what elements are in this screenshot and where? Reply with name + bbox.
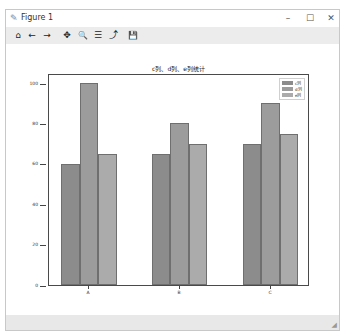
legend-swatch bbox=[282, 93, 293, 97]
resize-grip-icon[interactable]: ◢ bbox=[332, 321, 337, 329]
edit-axis-icon[interactable]: ⤴ bbox=[106, 29, 120, 42]
figure-app-icon: ✎ bbox=[10, 13, 18, 23]
bar-c-A bbox=[61, 164, 80, 285]
bar-c-B bbox=[152, 154, 170, 285]
subplots-icon[interactable]: ☰ bbox=[91, 29, 105, 42]
bar-d-C bbox=[261, 103, 280, 285]
back-icon[interactable]: ← bbox=[25, 29, 39, 42]
status-bar: ◢ bbox=[6, 315, 339, 330]
home-icon[interactable]: ⌂ bbox=[11, 29, 25, 42]
legend-item: e列 bbox=[282, 92, 302, 98]
zoom-icon[interactable]: 🔍 bbox=[76, 29, 90, 42]
bar-d-B bbox=[170, 123, 189, 285]
minimize-button[interactable]: – bbox=[278, 11, 298, 25]
bar-e-A bbox=[98, 154, 117, 285]
save-icon[interactable]: 💾 bbox=[126, 29, 140, 42]
bar-c-C bbox=[243, 144, 261, 285]
bar-e-C bbox=[280, 134, 298, 285]
bar-e-B bbox=[189, 144, 207, 285]
forward-icon[interactable]: → bbox=[40, 29, 54, 42]
legend-swatch bbox=[282, 81, 293, 85]
close-button[interactable]: ✕ bbox=[321, 11, 341, 25]
legend-swatch bbox=[282, 87, 293, 91]
maximize-button[interactable]: ☐ bbox=[300, 11, 320, 25]
title-bar[interactable]: ✎ Figure 1 – ☐ ✕ bbox=[6, 10, 339, 27]
legend-label: e列 bbox=[295, 92, 301, 98]
bar-d-A bbox=[80, 83, 98, 285]
pan-icon[interactable]: ✥ bbox=[60, 29, 74, 42]
legend: c列 d列 e列 bbox=[279, 78, 305, 100]
plot-area[interactable]: c列 d列 e列 bbox=[48, 74, 309, 286]
window-title: Figure 1 bbox=[21, 13, 53, 22]
toolbar: ⌂ ← → ✥ 🔍 ☰ ⤴ 💾 bbox=[6, 27, 339, 44]
